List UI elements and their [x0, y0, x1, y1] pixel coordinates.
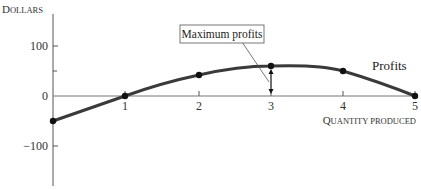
x-axis-title: QUANTITY PRODUCED: [323, 114, 416, 126]
data-point-q1: [122, 93, 128, 99]
annotation-text: Maximum profits: [182, 28, 263, 41]
y-tick-label-100: 100: [30, 39, 48, 53]
data-point-q3: [268, 63, 274, 69]
arrowhead-down-icon: [269, 89, 274, 94]
x-tick-label-3: 3: [268, 99, 274, 113]
annotation-leader-line: [242, 42, 269, 82]
arrowhead-up-icon: [269, 69, 274, 74]
data-point-q0: [50, 118, 56, 124]
profits-curve: [53, 66, 415, 121]
y-tick-label-0: 0: [42, 89, 48, 103]
x-tick-label-1: 1: [122, 99, 128, 113]
data-point-q4: [340, 68, 346, 74]
y-tick-label-neg100: −100: [23, 139, 48, 153]
x-tick-label-5: 5: [412, 99, 418, 113]
profits-chart: 100 0 −100 1 2 3 4 5 DOLLARS QUANTITY PR…: [0, 0, 421, 190]
data-point-q2: [196, 72, 202, 78]
y-axis-title: DOLLARS: [2, 3, 43, 15]
x-tick-label-4: 4: [340, 99, 346, 113]
x-tick-label-2: 2: [196, 99, 202, 113]
series-label-profits: Profits: [372, 58, 407, 73]
data-point-q5: [412, 93, 418, 99]
